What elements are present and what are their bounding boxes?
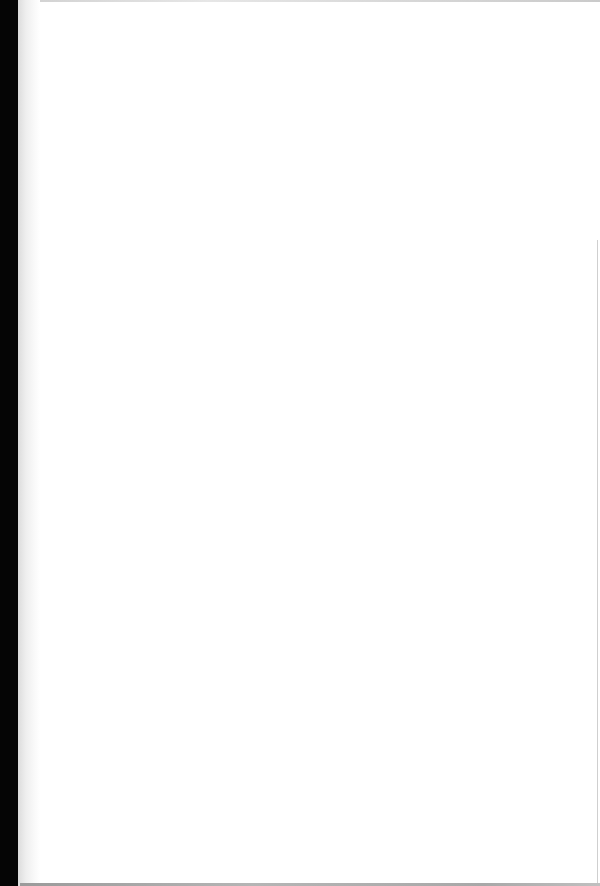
page-content xyxy=(40,0,598,886)
blank-page xyxy=(40,0,598,886)
page-gutter-shadow xyxy=(18,0,40,886)
scan-dark-edge xyxy=(0,0,18,886)
page-top-edge xyxy=(40,0,600,2)
page-right-edge xyxy=(597,240,598,886)
